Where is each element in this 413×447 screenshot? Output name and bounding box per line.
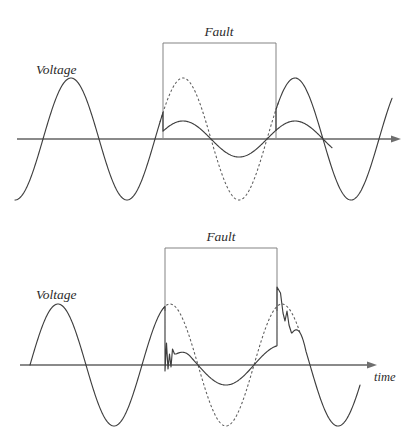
top-panel-svg: Fault Voltage [0, 0, 413, 224]
voltage-axis-label: Voltage [36, 287, 77, 302]
sag-tail-curve [276, 121, 332, 148]
panel-voltage-sag-ideal: Fault Voltage [0, 0, 413, 224]
voltage-axis-label: Voltage [36, 62, 77, 77]
bottom-panel-svg: Fault Voltage time [0, 223, 413, 447]
fault-bracket-top [163, 43, 276, 139]
fault-bracket-bottom [165, 248, 277, 311]
voltage-waveform-with-transients [30, 287, 360, 426]
voltage-sag-figure: Fault Voltage Fault Voltage time [0, 0, 413, 447]
fault-bracket-path [163, 43, 276, 139]
fault-label: Fault [203, 24, 234, 39]
fault-bracket-path [165, 248, 277, 311]
time-axis-label: time [374, 370, 396, 384]
panel-voltage-sag-transients: Fault Voltage time [0, 223, 413, 447]
fault-label: Fault [205, 229, 236, 244]
axis-arrowhead [391, 135, 401, 142]
axis-arrowhead [367, 361, 377, 368]
